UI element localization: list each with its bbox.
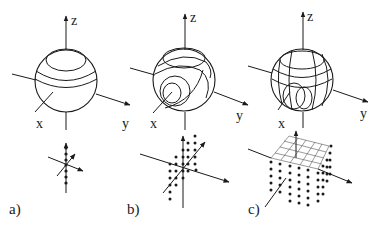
panel-c: z x y xyxy=(248,9,368,218)
x-label-b: x xyxy=(150,116,157,131)
z-label-c: z xyxy=(307,9,313,24)
lattice-c xyxy=(248,131,352,207)
panel-b: z x y b) xyxy=(127,10,248,218)
y-axis-a xyxy=(96,94,130,105)
panel-label-a: a) xyxy=(9,201,21,218)
x-axis-a xyxy=(35,92,53,112)
sphere-c xyxy=(271,49,333,111)
lattice-b xyxy=(140,135,229,209)
panel-label-b: b) xyxy=(127,201,140,218)
axes-a xyxy=(12,16,130,130)
axes-b xyxy=(130,14,248,130)
x-label-c: x xyxy=(278,116,285,131)
sphere-a xyxy=(35,49,97,112)
diagram-canvas: z x y a) xyxy=(0,0,378,225)
z-label-b: z xyxy=(190,10,196,25)
lattice-a xyxy=(48,143,83,193)
panel-label-c: c) xyxy=(248,201,260,218)
y-axis-back-a xyxy=(12,74,36,80)
y-label-b: y xyxy=(236,108,243,123)
y-label-c: y xyxy=(360,106,367,121)
panel-a: z x y a) xyxy=(9,13,130,218)
y-label-a: y xyxy=(122,116,129,131)
sphere-b xyxy=(153,48,215,111)
x-label-a: x xyxy=(36,116,43,131)
z-label-a: z xyxy=(71,13,77,28)
